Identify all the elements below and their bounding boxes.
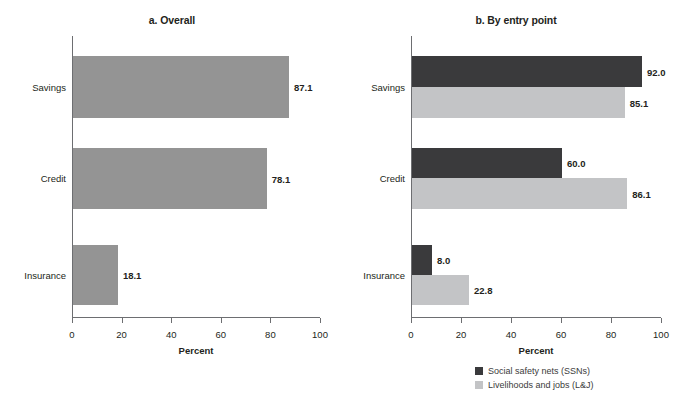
category-label-credit: Credit (380, 173, 405, 184)
bar-value-lj-insurance: 22.8 (474, 285, 493, 296)
x-tick-40 (171, 318, 172, 323)
chart-legend: Social safety nets (SSNs) Livelihoods an… (475, 364, 594, 392)
legend-swatch-lj (475, 381, 483, 389)
x-axis-line (411, 317, 661, 318)
x-tick-80 (270, 318, 271, 323)
figure-root: a. Overall 0 20 40 60 80 100 Percent Sav… (0, 0, 688, 401)
plot-area-overall: 0 20 40 60 80 100 Percent Savings Credit… (72, 36, 320, 318)
x-tick-20 (461, 318, 462, 323)
bar-overall-savings[interactable]: 87.1 (73, 56, 289, 118)
x-tick-100 (661, 318, 662, 323)
x-tick-label-0: 0 (69, 329, 74, 340)
bar-lj-credit[interactable]: 86.1 (412, 178, 627, 209)
category-label-savings: Savings (32, 82, 66, 93)
bar-lj-insurance[interactable]: 22.8 (412, 275, 469, 305)
bar-overall-insurance[interactable]: 18.1 (73, 245, 118, 305)
bar-value-ssn-credit: 60.0 (567, 158, 586, 169)
x-axis-line (72, 317, 320, 318)
bar-value-lj-savings: 85.1 (630, 97, 649, 108)
legend-item-ssn[interactable]: Social safety nets (SSNs) (475, 364, 594, 378)
chart-panel-overall: a. Overall 0 20 40 60 80 100 Percent Sav… (0, 0, 344, 401)
legend-label-ssn: Social safety nets (SSNs) (488, 366, 590, 376)
bar-ssn-credit[interactable]: 60.0 (412, 148, 562, 178)
legend-item-lj[interactable]: Livelihoods and jobs (L&J) (475, 378, 594, 392)
bar-ssn-savings[interactable]: 92.0 (412, 56, 642, 87)
legend-label-lj: Livelihoods and jobs (L&J) (488, 380, 594, 390)
x-tick-label-80: 80 (265, 329, 276, 340)
panel-a-title: a. Overall (0, 14, 344, 26)
legend-swatch-ssn (475, 367, 483, 375)
x-tick-80 (611, 318, 612, 323)
bar-value-overall-credit: 78.1 (272, 173, 291, 184)
bar-value-lj-credit: 86.1 (632, 188, 651, 199)
panel-b-title: b. By entry point (344, 14, 688, 26)
x-tick-label-20: 20 (456, 329, 467, 340)
chart-panel-by-entry-point: b. By entry point 0 20 40 60 80 100 Perc… (344, 0, 688, 401)
x-axis-title: Percent (411, 345, 661, 356)
category-label-insurance: Insurance (24, 270, 66, 281)
bar-overall-credit[interactable]: 78.1 (73, 148, 267, 209)
x-axis-title: Percent (72, 345, 320, 356)
x-tick-label-100: 100 (312, 329, 328, 340)
x-tick-0 (72, 318, 73, 323)
x-tick-label-60: 60 (556, 329, 567, 340)
x-tick-60 (221, 318, 222, 323)
x-tick-label-40: 40 (166, 329, 177, 340)
bar-value-ssn-insurance: 8.0 (437, 255, 450, 266)
category-label-insurance: Insurance (363, 270, 405, 281)
bar-ssn-insurance[interactable]: 8.0 (412, 245, 432, 275)
x-tick-40 (511, 318, 512, 323)
x-tick-0 (411, 318, 412, 323)
bar-value-ssn-savings: 92.0 (647, 66, 666, 77)
x-tick-label-40: 40 (506, 329, 517, 340)
x-tick-label-80: 80 (606, 329, 617, 340)
bar-lj-savings[interactable]: 85.1 (412, 87, 625, 118)
bar-value-overall-savings: 87.1 (294, 82, 313, 93)
category-label-credit: Credit (41, 173, 66, 184)
x-tick-60 (561, 318, 562, 323)
category-label-savings: Savings (371, 82, 405, 93)
x-tick-label-100: 100 (653, 329, 669, 340)
x-tick-label-60: 60 (216, 329, 227, 340)
plot-area-by-entry-point: 0 20 40 60 80 100 Percent Savings Credit… (411, 36, 661, 318)
x-tick-label-20: 20 (116, 329, 127, 340)
x-tick-20 (122, 318, 123, 323)
x-tick-label-0: 0 (408, 329, 413, 340)
x-tick-100 (320, 318, 321, 323)
bar-value-overall-insurance: 18.1 (123, 270, 142, 281)
